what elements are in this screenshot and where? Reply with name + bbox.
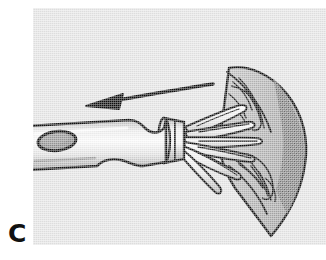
- figure-root: C: [0, 0, 326, 260]
- instrument-shaft: [33, 120, 166, 170]
- arrow-head: [86, 94, 123, 109]
- illustration-panel: [33, 8, 326, 245]
- direction-arrow: [86, 84, 213, 109]
- illustration-drawing: [33, 8, 326, 245]
- panel-label: C: [8, 219, 34, 249]
- arrow-shaft: [113, 84, 213, 101]
